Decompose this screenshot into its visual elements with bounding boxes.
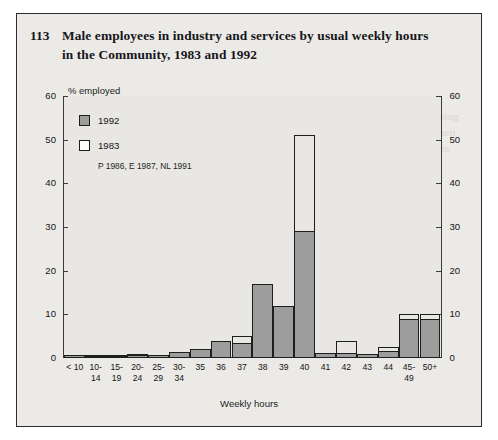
bar-group	[252, 96, 273, 358]
x-axis-ticks: < 1010- 1415- 1920- 2425- 2930- 34353637…	[64, 362, 440, 396]
y-tick-label-right-60: 60	[449, 90, 471, 101]
bar-1992	[336, 353, 357, 358]
y-tick-label-right-40: 40	[449, 177, 471, 188]
bar-1992	[64, 355, 85, 358]
bar-1992	[420, 319, 441, 358]
y-tick-label-10: 10	[34, 308, 56, 319]
chart-legend: 1992 1983 P 1986, E 1987, NL 1991	[79, 111, 249, 171]
bar-group	[273, 96, 294, 358]
y-tick-label-right-10: 10	[449, 308, 471, 319]
bar-1992	[315, 353, 336, 358]
figure-page: l- Fishingand theirspheres 113 Male empl…	[0, 0, 498, 440]
bar-1992	[252, 284, 273, 358]
y-tick-label-40: 40	[34, 177, 56, 188]
y-axis-label: % employed	[68, 85, 120, 96]
y-tick-label-50: 50	[34, 134, 56, 145]
bar-1992	[190, 349, 211, 358]
bar-1992	[273, 306, 294, 358]
bar-1992	[106, 356, 127, 358]
y-tick-label-0: 0	[34, 352, 56, 363]
y-tick-label-right-0: 0	[449, 352, 471, 363]
y-tick-label-right-30: 30	[449, 221, 471, 232]
legend-label-1983: 1983	[98, 140, 119, 151]
figure-number: 113	[30, 26, 60, 45]
bar-1992	[169, 352, 190, 358]
legend-item-1983: 1983	[79, 136, 249, 155]
bar-1992	[232, 343, 253, 358]
legend-swatch-1992	[79, 115, 90, 126]
bar-1992	[148, 355, 169, 358]
y-tick-label-right-20: 20	[449, 265, 471, 276]
legend-item-1992: 1992	[79, 111, 249, 130]
y-tick-label-60: 60	[34, 90, 56, 101]
x-tick-label: 50+	[416, 362, 445, 373]
legend-label-1992: 1992	[98, 115, 119, 126]
legend-note: P 1986, E 1987, NL 1991	[98, 161, 249, 171]
bar-1992	[211, 341, 232, 358]
bar-group	[399, 96, 420, 358]
bar-group	[378, 96, 399, 358]
x-axis-label: Weekly hours	[0, 398, 498, 409]
page-title: Male employees in industry and services …	[62, 26, 430, 64]
bar-1992	[357, 354, 378, 358]
bar-1992	[399, 319, 420, 358]
bar-1992	[294, 231, 315, 358]
bar-1992	[127, 355, 148, 358]
bar-group	[315, 96, 336, 358]
bar-1992	[378, 351, 399, 358]
legend-swatch-1983	[79, 140, 90, 151]
bar-group	[420, 96, 441, 358]
bar-group	[336, 96, 357, 358]
y-tick-label-30: 30	[34, 221, 56, 232]
bar-group	[294, 96, 315, 358]
y-tick-label-20: 20	[34, 265, 56, 276]
bar-group	[357, 96, 378, 358]
y-tick-label-right-50: 50	[449, 134, 471, 145]
bar-1992	[85, 356, 106, 358]
figure-title-block: 113 Male employees in industry and servi…	[30, 26, 430, 64]
